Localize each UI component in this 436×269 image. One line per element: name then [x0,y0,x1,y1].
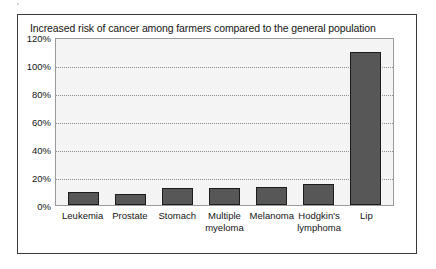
bar-slot [342,39,389,205]
x-tick-label-line: Lip [343,210,390,222]
x-tick-label: Leukemia [59,210,106,233]
bar-slot [248,39,295,205]
stray-tick-mark: ′ [17,3,23,10]
bar-slot [107,39,154,205]
plot-area [55,38,394,206]
x-tick-label-line: Prostate [106,210,153,222]
bar-slot [201,39,248,205]
bar-lip[interactable] [350,52,381,205]
x-tick-label-line: myeloma [201,222,248,234]
x-tick-label-line: Leukemia [59,210,106,222]
bar-slot [60,39,107,205]
x-tick-label: Stomach [154,210,201,233]
bar-leukemia[interactable] [68,192,99,205]
y-tick-label: 100% [27,61,51,72]
plot-wrapper: 0%20%40%60%80%100%120% [55,38,394,206]
bar-slot [154,39,201,205]
y-tick-label: 0% [37,201,51,212]
bar-series [56,39,393,205]
bar-prostate[interactable] [115,194,146,205]
x-tick-label-line: lymphoma [295,222,342,234]
chart-figure: Increased risk of cancer among farmers c… [17,14,417,254]
bar-multiple-myeloma[interactable] [209,188,240,205]
x-tick-label-line: Multiple [201,210,248,222]
x-tick-label: Melanoma [248,210,295,233]
y-axis-tick-labels: 0%20%40%60%80%100%120% [21,38,51,206]
x-tick-label: Lip [343,210,390,233]
y-tick-label: 40% [32,145,51,156]
bar-melanoma[interactable] [256,187,287,205]
bar-stomach[interactable] [162,188,193,205]
chart-title: Increased risk of cancer among farmers c… [30,22,376,34]
bar-hodgkin-s-lymphoma[interactable] [303,184,334,205]
bar-slot [295,39,342,205]
x-tick-label: Hodgkin'slymphoma [295,210,342,233]
x-tick-label-line: Hodgkin's [295,210,342,222]
y-tick-label: 20% [32,173,51,184]
x-tick-label-line: Stomach [154,210,201,222]
x-axis-category-labels: LeukemiaProstateStomachMultiplemyelomaMe… [55,210,394,233]
y-tick-label: 60% [32,117,51,128]
x-tick-label: Multiplemyeloma [201,210,248,233]
x-tick-label-line: Melanoma [248,210,295,222]
x-tick-label: Prostate [106,210,153,233]
y-tick-label: 120% [27,33,51,44]
y-tick-label: 80% [32,89,51,100]
